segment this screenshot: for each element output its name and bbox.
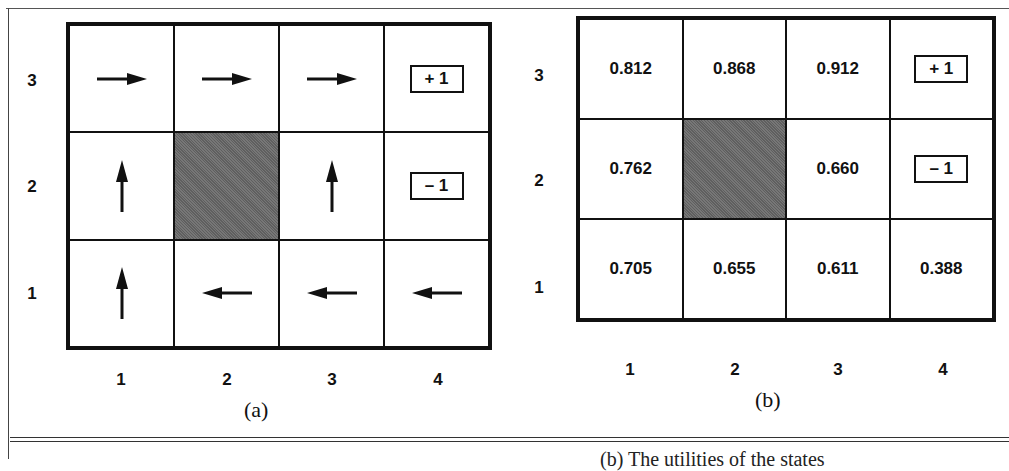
grid-cell: 0.705 — [579, 219, 683, 319]
grid-cell: + 1 — [384, 25, 489, 132]
arrow-right-icon — [97, 72, 147, 86]
caption-rule-top — [10, 437, 1009, 438]
grid-cell: 0.762 — [579, 119, 683, 219]
policy-grid: + 1– 1 — [66, 22, 492, 350]
terminal-reward-box: – 1 — [410, 172, 464, 200]
grid-cell: + 1 — [890, 19, 994, 119]
arrow-right-icon — [307, 72, 357, 86]
row-label: 2 — [529, 171, 549, 191]
arrow-up-icon — [325, 160, 339, 212]
arrow-left-icon — [412, 286, 462, 300]
grid-cell: 0.812 — [579, 19, 683, 119]
wall-cell — [683, 119, 787, 219]
panel-b-caption: (b) — [755, 387, 781, 413]
utility-value: 0.912 — [816, 59, 859, 79]
col-label: 1 — [101, 370, 141, 390]
terminal-reward-box: – 1 — [914, 155, 968, 183]
row-label: 2 — [22, 177, 42, 197]
col-label: 3 — [312, 370, 352, 390]
row-label: 1 — [529, 278, 549, 298]
wall-cell — [174, 132, 279, 239]
grid-cell — [174, 25, 279, 132]
panel-a-policy: + 1– 1 3 2 1 1 2 3 4 (a) — [0, 0, 500, 430]
col-label: 2 — [207, 370, 247, 390]
utility-value: 0.812 — [609, 59, 652, 79]
grid-cell — [279, 25, 384, 132]
utility-value: 0.388 — [920, 259, 963, 279]
grid-cell — [384, 240, 489, 347]
arrow-left-icon — [307, 286, 357, 300]
row-label: 3 — [529, 66, 549, 86]
grid-cell — [69, 240, 174, 347]
panel-a-caption: (a) — [244, 397, 268, 423]
utility-value: 0.611 — [817, 259, 859, 279]
col-label: 4 — [418, 370, 458, 390]
grid-cell — [69, 132, 174, 239]
col-label: 4 — [923, 360, 963, 380]
col-label: 2 — [715, 360, 755, 380]
grid-cell: 0.611 — [786, 219, 890, 319]
arrow-up-icon — [115, 160, 129, 212]
caption-rule-bottom — [10, 441, 1009, 442]
grid-cell: 0.660 — [786, 119, 890, 219]
utility-value: 0.762 — [609, 159, 652, 179]
utility-value: 0.705 — [609, 259, 652, 279]
utility-grid: 0.8120.8680.912+ 10.7620.660– 10.7050.65… — [576, 16, 996, 322]
row-label: 1 — [22, 284, 42, 304]
grid-cell — [279, 132, 384, 239]
utility-value: 0.655 — [713, 259, 756, 279]
grid-cell: 0.912 — [786, 19, 890, 119]
grid-cell — [279, 240, 384, 347]
grid-cell: 0.655 — [683, 219, 787, 319]
col-label: 1 — [610, 360, 650, 380]
utility-value: 0.868 — [713, 59, 756, 79]
utility-value: 0.660 — [816, 159, 859, 179]
terminal-reward-box: + 1 — [914, 55, 968, 83]
grid-cell: – 1 — [890, 119, 994, 219]
arrow-right-icon — [202, 72, 252, 86]
panel-b-utilities: 0.8120.8680.912+ 10.7620.660– 10.7050.65… — [500, 0, 1009, 430]
col-label: 3 — [818, 360, 858, 380]
grid-cell — [174, 240, 279, 347]
terminal-reward-box: + 1 — [410, 65, 464, 93]
grid-cell: – 1 — [384, 132, 489, 239]
grid-cell: 0.388 — [890, 219, 994, 319]
grid-cell — [69, 25, 174, 132]
row-label: 3 — [22, 71, 42, 91]
grid-cell: 0.868 — [683, 19, 787, 119]
arrow-left-icon — [202, 286, 252, 300]
figure-caption-fragment: (b) The utilities of the states — [600, 448, 825, 471]
arrow-up-icon — [115, 267, 129, 319]
